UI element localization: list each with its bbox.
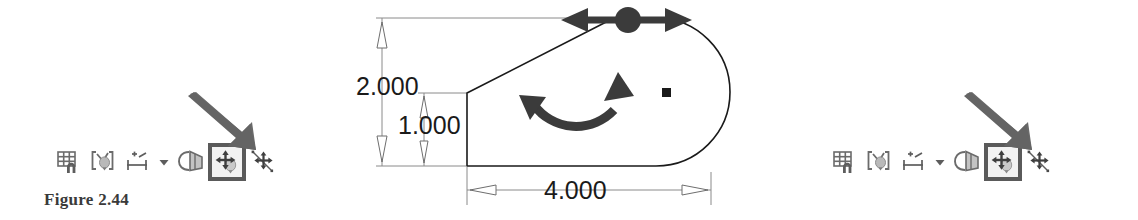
center-point-marker[interactable] <box>662 88 671 97</box>
translate-handle-node <box>615 7 641 33</box>
callout-arrow-left <box>186 92 272 158</box>
grid-snap-icon[interactable] <box>828 145 862 179</box>
dimension-value-2000[interactable]: 2.000 <box>356 72 419 100</box>
dimension-icon[interactable] <box>120 145 154 179</box>
dimension-value-1000[interactable]: 1.000 <box>398 111 461 139</box>
figure-caption: Figure 2.44 <box>44 190 129 210</box>
constraints-icon[interactable] <box>862 145 896 179</box>
callout-arrow-right <box>962 92 1048 158</box>
cad-sketch-drawing: 2.000 1.000 4.000 <box>356 0 796 220</box>
profile-outline <box>467 18 730 166</box>
figure-canvas: 2.000 1.000 4.000 <box>0 0 1138 220</box>
chevron-down-icon[interactable] <box>930 145 950 179</box>
chevron-down-icon[interactable] <box>154 145 174 179</box>
constraints-icon[interactable] <box>86 145 120 179</box>
dimension-value-4000[interactable]: 4.000 <box>544 176 607 204</box>
grid-snap-icon[interactable] <box>52 145 86 179</box>
dimension-icon[interactable] <box>896 145 930 179</box>
